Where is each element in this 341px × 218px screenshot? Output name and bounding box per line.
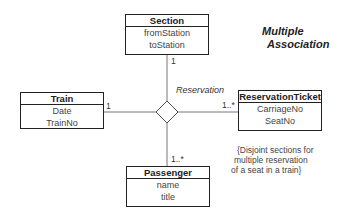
attribute: TrainNo [21,117,103,129]
attribute: fromStation [126,27,208,39]
diagram-title: Multiple Association [262,25,329,51]
attribute: title [127,191,209,203]
note-line-2: multiple reservation [231,155,314,165]
attribute: Date [21,105,103,117]
class-name: ReservationTicket [239,91,321,103]
association-diamond-icon [156,101,178,123]
class-name: Train [21,93,103,105]
association-name: Reservation [176,85,224,95]
note-line-3: of a seat in a train} [231,165,314,175]
attribute: name [127,179,209,191]
multiplicity-passenger: 1..* [171,154,184,164]
attribute: CarriageNo [239,103,321,115]
class-train: Train Date TrainNo [20,92,104,129]
title-line-2: Association [262,38,329,51]
note-line-1: {Disjoint sections for [231,145,314,155]
class-section: Section fromStation toStation [125,14,209,55]
class-name: Section [126,15,208,27]
multiplicity-section: 1 [171,56,176,66]
class-reservation-ticket: ReservationTicket CarriageNo SeatNo [238,90,322,131]
multiplicity-train: 1 [106,101,111,111]
attribute: SeatNo [239,115,321,127]
title-line-1: Multiple [262,25,329,38]
class-name: Passenger [127,167,209,179]
class-passenger: Passenger name title [126,166,210,207]
constraint-note: {Disjoint sections for multiple reservat… [231,145,314,175]
multiplicity-ticket: 1..* [222,100,235,110]
attribute: toStation [126,39,208,51]
